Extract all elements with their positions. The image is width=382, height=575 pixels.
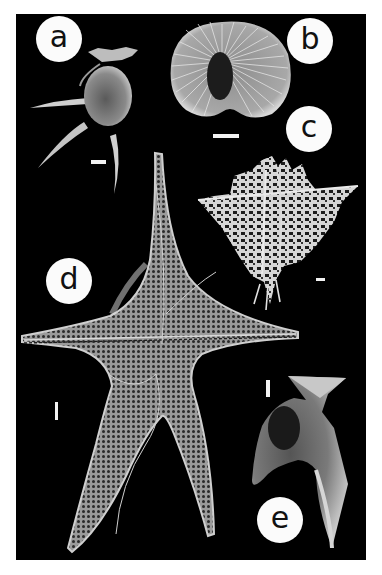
panel-label-c: c — [286, 106, 332, 152]
specimen-a — [30, 47, 138, 194]
figure-plate: a b c d e — [16, 14, 366, 560]
panel-label-b: b — [287, 18, 333, 64]
specimen-b — [171, 22, 291, 118]
panel-label-d: d — [46, 258, 92, 304]
panel-label-e: e — [257, 497, 303, 543]
scale-bar-a — [91, 160, 106, 164]
scale-bar-c — [316, 278, 325, 281]
panel-label-a: a — [36, 16, 82, 62]
scale-bar-b — [213, 134, 239, 138]
specimen-c — [198, 156, 358, 310]
scale-bar-d — [55, 402, 58, 420]
scale-bar-e — [266, 380, 270, 397]
